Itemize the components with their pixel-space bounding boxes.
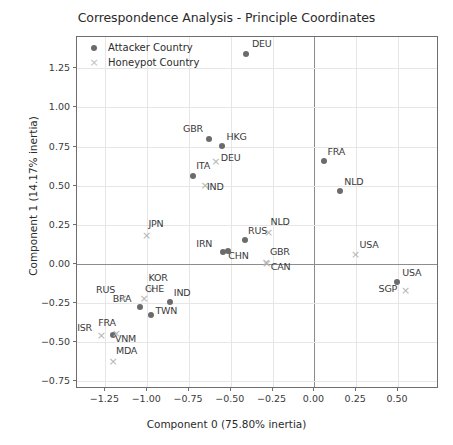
y-tick-mark — [73, 67, 76, 68]
x-tick-label: −0.75 — [173, 393, 202, 404]
data-point-label: ISR — [77, 322, 92, 333]
data-point-label: CHE — [145, 283, 164, 294]
data-point-cross-ISR — [97, 331, 106, 340]
x-tick-label: −0.50 — [215, 393, 244, 404]
data-point-label: ITA — [196, 160, 210, 171]
x-tick-label: −1.00 — [132, 393, 161, 404]
x-tick-mark — [104, 388, 105, 391]
data-point-cross-MDA — [108, 356, 117, 365]
data-point-label: HKG — [227, 131, 247, 142]
data-point-dot-RUS — [242, 237, 248, 243]
data-point-cross-DEU — [211, 157, 220, 166]
data-point-dot-NLD — [337, 188, 343, 194]
y-tick-label: −0.75 — [28, 375, 70, 386]
x-tick-mark — [397, 388, 398, 391]
data-point-dot-BRA — [137, 304, 143, 310]
data-point-dot-TWN — [148, 312, 154, 318]
data-point-cross-SGP — [401, 285, 410, 294]
y-tick-mark — [73, 185, 76, 186]
gridline-horizontal — [77, 186, 437, 187]
y-tick-mark — [73, 341, 76, 342]
data-point-cross-CHE — [139, 293, 148, 302]
data-point-label: CHN — [228, 250, 248, 261]
data-point-label: NLD — [344, 176, 363, 187]
gridline-vertical — [398, 37, 399, 387]
gridline-horizontal — [77, 147, 437, 148]
gridline-vertical — [314, 37, 315, 387]
data-point-label: USA — [402, 267, 421, 278]
data-point-label: CAN — [271, 261, 291, 272]
data-point-cross-RUS — [119, 293, 128, 302]
data-point-label: IND — [207, 181, 224, 192]
y-tick-mark — [73, 146, 76, 147]
gridline-horizontal — [77, 381, 437, 382]
x-tick-label: −0.25 — [257, 393, 286, 404]
gridline-vertical — [273, 37, 274, 387]
data-point-dot-IRN — [220, 249, 226, 255]
x-tick-label: −1.25 — [90, 393, 119, 404]
legend: Attacker Country×Honeypot Country — [84, 40, 199, 70]
x-tick-label: 0.50 — [386, 393, 407, 404]
x-tick-mark — [146, 388, 147, 391]
data-point-cross-USA — [351, 249, 360, 258]
data-point-label: MDA — [116, 345, 137, 356]
gridline-vertical — [189, 37, 190, 387]
data-point-label: JPN — [148, 218, 163, 229]
y-tick-mark — [73, 302, 76, 303]
data-point-cross-FRA — [112, 328, 121, 337]
data-point-label: GBR — [270, 246, 290, 257]
x-tick-mark — [355, 388, 356, 391]
gridline-vertical — [356, 37, 357, 387]
y-tick-label: −0.50 — [28, 336, 70, 347]
data-point-label: GBR — [183, 123, 203, 134]
data-point-dot-HKG — [219, 143, 225, 149]
data-point-dot-ITA — [190, 173, 196, 179]
x-tick-mark — [230, 388, 231, 391]
data-point-dot-GBR — [206, 136, 212, 142]
x-tick-mark — [188, 388, 189, 391]
data-point-label: IRN — [196, 238, 212, 249]
data-point-cross-JPN — [142, 230, 151, 239]
y-tick-mark — [73, 224, 76, 225]
gridline-vertical — [231, 37, 232, 387]
y-axis-label: Component 1 (14.17% inertia) — [27, 66, 39, 326]
data-point-label: DEU — [221, 152, 241, 163]
data-point-label: FRA — [98, 317, 116, 328]
y-tick-mark — [73, 380, 76, 381]
data-point-cross-NLD — [264, 227, 273, 236]
x-tick-label: 0.25 — [345, 393, 366, 404]
data-point-label: IND — [174, 287, 191, 298]
data-point-label: KOR — [148, 272, 167, 283]
legend-item-label: Honeypot Country — [104, 57, 199, 68]
data-point-dot-FRA — [321, 158, 327, 164]
x-axis-label: Component 0 (75.80% inertia) — [0, 418, 453, 430]
data-point-dot-IND — [167, 299, 173, 305]
plot-area: DEUGBRHKGITAFRANLDRUSCHNIRNBRATWNINDVNMU… — [76, 36, 438, 388]
scatter-plot-figure: Correspondence Analysis - Principle Coor… — [0, 0, 453, 445]
data-point-label: FRA — [328, 146, 346, 157]
data-point-label: SGP — [379, 283, 398, 294]
x-tick-label: 0.00 — [303, 393, 324, 404]
data-point-label: TWN — [155, 305, 177, 316]
gridline-horizontal — [77, 264, 437, 265]
data-point-label: USA — [359, 239, 378, 250]
legend-item-dot[interactable]: Attacker Country — [84, 40, 199, 55]
legend-dot-icon — [84, 42, 104, 53]
x-tick-mark — [272, 388, 273, 391]
data-point-label: NLD — [271, 216, 290, 227]
page-title: Correspondence Analysis - Principle Coor… — [0, 10, 453, 25]
gridline-horizontal — [77, 107, 437, 108]
data-point-label: DEU — [252, 38, 272, 49]
y-tick-mark — [73, 106, 76, 107]
legend-item-label: Attacker Country — [104, 42, 193, 53]
legend-cross-icon: × — [84, 57, 104, 68]
gridline-vertical — [147, 37, 148, 387]
data-point-dot-DEU — [243, 51, 249, 57]
x-tick-mark — [313, 388, 314, 391]
legend-item-cross[interactable]: ×Honeypot Country — [84, 55, 199, 70]
y-tick-mark — [73, 263, 76, 264]
data-point-label: RUS — [96, 284, 115, 295]
